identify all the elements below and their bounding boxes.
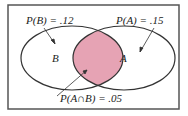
intersection-annotation: P(A∩B) = .05: [59, 92, 123, 105]
set-b-label: B: [52, 52, 59, 64]
set-a-label: A: [119, 52, 127, 64]
venn-diagram: P(B) = .12 P(A) = .15 B A P(A∩B) = .05: [0, 0, 188, 116]
pb-annotation: P(B) = .12: [25, 14, 74, 27]
pa-annotation: P(A) = .15: [115, 14, 164, 27]
